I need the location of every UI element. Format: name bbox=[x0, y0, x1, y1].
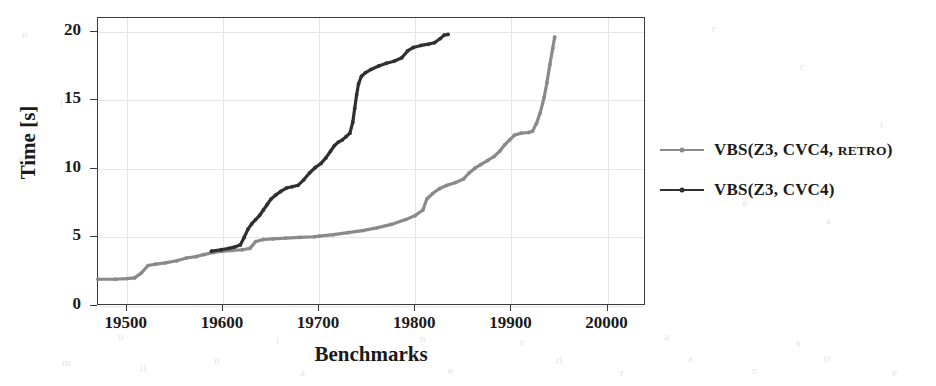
data-point bbox=[344, 135, 348, 139]
legend-label: VBS(Z3, CVC4) bbox=[714, 180, 835, 200]
data-point bbox=[353, 107, 357, 111]
data-point bbox=[163, 261, 167, 265]
data-point bbox=[385, 61, 389, 65]
data-point bbox=[240, 248, 244, 252]
data-point bbox=[446, 33, 450, 37]
data-point bbox=[346, 231, 350, 235]
data-point bbox=[467, 171, 471, 175]
data-point bbox=[271, 237, 275, 241]
data-point bbox=[312, 235, 316, 239]
scan-artifact: m bbox=[62, 356, 71, 368]
data-point bbox=[333, 144, 337, 148]
data-point bbox=[336, 140, 340, 144]
series-line-2 bbox=[211, 34, 448, 251]
data-point bbox=[369, 68, 373, 72]
data-point bbox=[317, 234, 321, 238]
data-point bbox=[210, 249, 214, 253]
data-point bbox=[425, 197, 429, 201]
data-point bbox=[400, 56, 404, 60]
y-axis-title: Time [s] bbox=[16, 73, 41, 213]
y-tick-label: 20 bbox=[41, 20, 81, 40]
y-tick-label: 5 bbox=[41, 225, 81, 245]
data-point bbox=[340, 138, 344, 142]
x-tick bbox=[607, 305, 608, 311]
data-point bbox=[113, 277, 117, 281]
data-point bbox=[437, 187, 441, 191]
data-point bbox=[298, 236, 302, 240]
data-point bbox=[498, 149, 502, 153]
scan-artifact: a bbox=[300, 366, 305, 378]
data-point bbox=[363, 71, 367, 75]
data-point bbox=[527, 131, 531, 135]
data-point bbox=[442, 33, 446, 37]
legend-item-2[interactable]: VBS(Z3, CVC4) bbox=[660, 170, 936, 210]
data-point bbox=[360, 74, 364, 78]
data-point bbox=[250, 222, 254, 226]
cactus-plot-figure: nuircteamllnaltetlrantieuinras 195001960… bbox=[0, 0, 936, 386]
data-point bbox=[233, 245, 237, 249]
x-axis-title: Benchmarks bbox=[97, 342, 645, 367]
data-point bbox=[392, 59, 396, 63]
data-point bbox=[508, 138, 512, 142]
x-tick-label: 19700 bbox=[273, 313, 363, 333]
data-point bbox=[261, 238, 265, 242]
data-point bbox=[308, 171, 312, 175]
data-point bbox=[254, 240, 258, 244]
data-point bbox=[269, 197, 273, 201]
data-point bbox=[248, 247, 252, 251]
scan-artifact: e bbox=[892, 366, 897, 378]
scan-artifact: n bbox=[22, 28, 28, 40]
legend-dot bbox=[680, 188, 685, 193]
x-tick bbox=[318, 305, 319, 311]
data-point bbox=[351, 120, 355, 124]
data-point bbox=[445, 183, 449, 187]
data-point bbox=[146, 264, 150, 268]
legend-label-smallcaps: RETRO bbox=[838, 143, 887, 158]
scan-artifact: r bbox=[712, 22, 716, 34]
scan-artifact: a bbox=[826, 214, 831, 226]
data-point bbox=[360, 229, 364, 233]
data-point bbox=[538, 111, 542, 115]
data-point bbox=[427, 42, 431, 46]
legend-marker-icon bbox=[660, 144, 704, 156]
data-point bbox=[258, 214, 262, 218]
data-point bbox=[548, 63, 552, 67]
data-point bbox=[406, 49, 410, 53]
data-point bbox=[519, 131, 523, 135]
data-point bbox=[535, 122, 539, 126]
data-point bbox=[202, 253, 206, 257]
data-point bbox=[438, 37, 442, 41]
data-point bbox=[492, 155, 496, 159]
plot-area bbox=[97, 17, 645, 305]
gridline-horizontal bbox=[98, 306, 644, 307]
scan-artifact: a bbox=[688, 352, 693, 364]
data-point bbox=[324, 156, 328, 160]
data-point bbox=[485, 159, 489, 163]
data-point bbox=[265, 203, 269, 207]
data-point bbox=[473, 166, 477, 170]
data-point bbox=[375, 226, 379, 230]
x-tick bbox=[222, 305, 223, 311]
data-point bbox=[553, 35, 557, 39]
legend-item-1[interactable]: VBS(Z3, CVC4, RETRO) bbox=[660, 130, 936, 170]
scan-artifact: a bbox=[664, 330, 669, 342]
y-tick bbox=[90, 168, 97, 169]
scan-artifact: t bbox=[880, 118, 884, 130]
data-point bbox=[185, 256, 189, 260]
data-point bbox=[279, 190, 283, 194]
data-point bbox=[545, 81, 549, 85]
legend-marker-icon bbox=[660, 184, 704, 196]
data-point bbox=[411, 46, 415, 50]
data-point bbox=[290, 185, 294, 189]
data-point bbox=[285, 186, 289, 190]
data-point bbox=[125, 277, 129, 281]
scan-artifact: n bbox=[752, 364, 758, 376]
data-point bbox=[254, 218, 258, 222]
data-point bbox=[139, 271, 143, 275]
data-point bbox=[96, 277, 100, 281]
data-point bbox=[329, 149, 333, 153]
y-tick-label: 10 bbox=[41, 157, 81, 177]
data-point bbox=[332, 233, 336, 237]
y-tick bbox=[90, 305, 97, 306]
legend-label: VBS(Z3, CVC4, RETRO) bbox=[714, 140, 893, 160]
